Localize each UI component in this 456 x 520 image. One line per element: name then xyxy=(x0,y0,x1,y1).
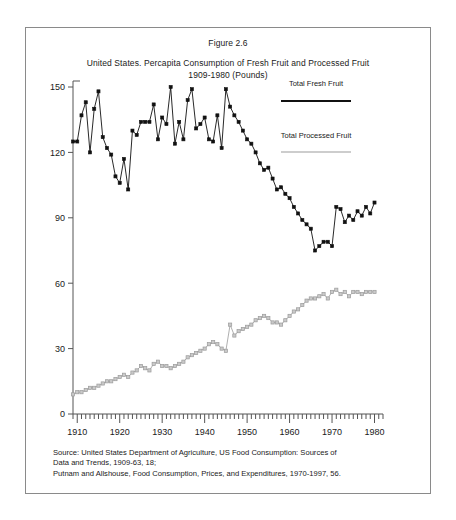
data-point-marker xyxy=(339,293,342,296)
data-point-marker xyxy=(279,323,282,326)
y-tick-label: 30 xyxy=(55,344,65,354)
data-point-marker xyxy=(195,351,198,354)
y-tick-label: 90 xyxy=(55,213,65,223)
data-point-marker xyxy=(101,382,104,385)
data-point-marker xyxy=(76,391,79,394)
data-point-marker xyxy=(322,240,325,243)
data-point-marker xyxy=(267,316,270,319)
data-point-marker xyxy=(148,120,151,123)
data-point-marker xyxy=(297,212,300,215)
data-point-marker xyxy=(258,162,261,165)
data-point-marker xyxy=(76,140,79,143)
data-point-marker xyxy=(360,214,363,217)
data-point-marker xyxy=(216,343,219,346)
data-point-marker xyxy=(97,90,100,93)
data-point-marker xyxy=(127,188,130,191)
data-point-marker xyxy=(296,308,299,311)
x-tick-label: 1920 xyxy=(110,427,130,437)
data-point-marker xyxy=(301,303,304,306)
y-axis: 0306090120150 xyxy=(50,81,80,419)
legend-label-fresh-fruit: Total Fresh Fruit xyxy=(289,79,344,88)
source-line-3: Putnam and Allshouse, Food Consumption, … xyxy=(53,469,403,480)
data-point-marker xyxy=(318,245,321,248)
x-tick-label: 1980 xyxy=(364,427,384,437)
data-point-marker xyxy=(88,151,91,154)
data-point-marker xyxy=(301,218,304,221)
data-point-marker xyxy=(271,177,274,180)
line-chart: 0306090120150 19101920193019401950196019… xyxy=(26,28,432,495)
x-tick-label: 1940 xyxy=(195,427,215,437)
data-point-marker xyxy=(195,127,198,130)
data-point-marker xyxy=(152,362,155,365)
data-point-marker xyxy=(105,146,108,149)
data-point-marker xyxy=(305,223,308,226)
data-point-marker xyxy=(322,293,325,296)
data-point-marker xyxy=(352,290,355,293)
y-tick-label: 0 xyxy=(60,409,65,419)
data-point-marker xyxy=(173,142,176,145)
data-point-marker xyxy=(127,375,130,378)
data-point-marker xyxy=(165,364,168,367)
data-point-marker xyxy=(250,323,253,326)
data-point-marker xyxy=(144,120,147,123)
data-point-marker xyxy=(212,140,215,143)
data-point-marker xyxy=(118,375,121,378)
data-point-marker xyxy=(335,288,338,291)
data-point-marker xyxy=(233,114,236,117)
data-point-marker xyxy=(224,349,227,352)
data-point-marker xyxy=(182,138,185,141)
data-point-marker xyxy=(258,316,261,319)
data-point-marker xyxy=(246,138,249,141)
data-point-marker xyxy=(131,129,134,132)
data-point-marker xyxy=(280,186,283,189)
data-point-marker xyxy=(178,362,181,365)
source-note: Source: United States Department of Agri… xyxy=(53,448,403,480)
x-tick-label: 1960 xyxy=(280,427,300,437)
data-point-marker xyxy=(105,380,108,383)
data-point-marker xyxy=(267,166,270,169)
data-point-marker xyxy=(229,323,232,326)
data-point-marker xyxy=(148,369,151,372)
data-point-marker xyxy=(122,373,125,376)
data-point-marker xyxy=(339,208,342,211)
y-tick-label: 150 xyxy=(50,82,65,92)
data-point-marker xyxy=(139,364,142,367)
data-point-marker xyxy=(93,107,96,110)
data-point-marker xyxy=(224,88,227,91)
data-point-marker xyxy=(313,297,316,300)
chart-plot-area: 0306090120150 19101920193019401950196019… xyxy=(26,28,432,495)
data-point-marker xyxy=(373,290,376,293)
data-point-marker xyxy=(347,295,350,298)
data-point-marker xyxy=(110,380,113,383)
source-line-1: Source: United States Department of Agri… xyxy=(53,448,403,459)
data-point-marker xyxy=(250,142,253,145)
data-point-marker xyxy=(71,140,74,143)
x-axis: 19101920193019401950196019701980 xyxy=(67,414,384,437)
data-point-marker xyxy=(169,85,172,88)
data-point-marker xyxy=(284,192,287,195)
data-point-marker xyxy=(360,293,363,296)
data-point-marker xyxy=(220,146,223,149)
data-point-marker xyxy=(199,349,202,352)
data-point-marker xyxy=(114,175,117,178)
data-point-marker xyxy=(246,325,249,328)
data-point-marker xyxy=(237,330,240,333)
data-point-marker xyxy=(186,99,189,102)
data-point-marker xyxy=(139,120,142,123)
data-point-marker xyxy=(292,205,295,208)
series-processed-fruit xyxy=(71,288,376,396)
data-point-marker xyxy=(135,369,138,372)
data-point-marker xyxy=(80,114,83,117)
data-point-marker xyxy=(369,290,372,293)
data-point-marker xyxy=(237,120,240,123)
data-point-marker xyxy=(330,290,333,293)
data-point-marker xyxy=(135,133,138,136)
data-point-marker xyxy=(263,314,266,317)
data-point-marker xyxy=(275,188,278,191)
x-tick-label: 1950 xyxy=(237,427,257,437)
data-point-marker xyxy=(144,367,147,370)
data-point-marker xyxy=(118,181,121,184)
y-tick-label: 60 xyxy=(55,279,65,289)
data-point-marker xyxy=(347,214,350,217)
data-point-marker xyxy=(241,327,244,330)
